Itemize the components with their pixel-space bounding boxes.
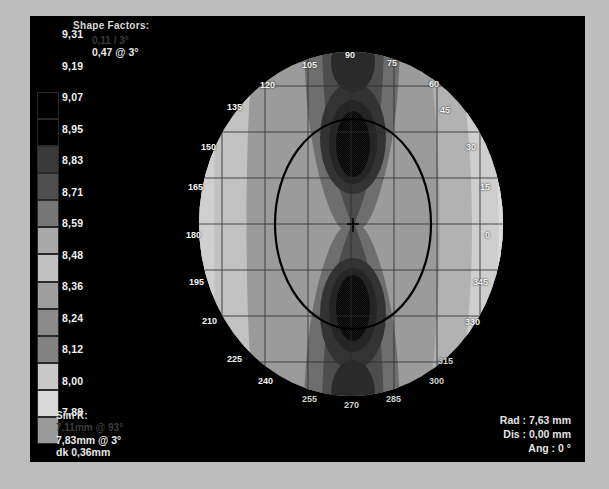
angle-label-bottom-240: 240 [258, 376, 273, 386]
color-scale-swatch [37, 119, 59, 146]
color-scale-label: 8,48 [62, 249, 106, 261]
angle-label-bottom-255: 255 [302, 394, 317, 404]
color-scale-label: 8,24 [62, 312, 106, 324]
angle-label-top-105: 105 [302, 60, 317, 70]
sim-k-line3: dk 0,36mm [56, 446, 110, 458]
angle-label-bottom-270: 270 [344, 400, 359, 410]
sim-k-line2: 7,83mm @ 3° [56, 434, 121, 446]
color-scale-swatch [37, 173, 59, 200]
angle-label-right-330: 330 [465, 317, 480, 327]
sim-k-title: Sim K: [56, 410, 88, 421]
color-scale-label: 8,36 [62, 280, 106, 292]
color-scale-label: 8,95 [62, 123, 106, 135]
angle-label-right-45: 45 [440, 105, 450, 115]
angle-label-right-315: 315 [438, 356, 453, 366]
readout-distance: Dis : 0,00 mm [503, 428, 571, 440]
angle-label-left-180: 180 [186, 230, 201, 240]
color-scale-label: 8,83 [62, 154, 106, 166]
color-scale-swatch [37, 309, 59, 336]
color-scale-swatch [37, 227, 59, 254]
color-scale-swatch [37, 363, 59, 390]
color-scale-label: 8,71 [62, 186, 106, 198]
corneal-map[interactable]: 120 105 90 75 60 135 150 165 180 195 210… [186, 42, 516, 412]
angle-label-left-210: 210 [202, 316, 217, 326]
angle-label-top-90: 90 [345, 50, 355, 60]
angle-label-left-135: 135 [227, 102, 242, 112]
color-scale-swatch [37, 254, 59, 281]
angle-label-left-150: 150 [201, 142, 216, 152]
shape-factors-title: Shape Factors: [73, 20, 149, 31]
angle-label-top-60: 60 [429, 79, 439, 89]
color-scale-swatch [37, 92, 59, 119]
angle-label-right-0: 0 [485, 230, 490, 240]
color-scale-label: 8,59 [62, 217, 106, 229]
readout-radius: Rad : 7,63 mm [500, 414, 571, 426]
angle-label-bottom-300: 300 [429, 376, 444, 386]
angle-label-top-75: 75 [387, 58, 397, 68]
color-scale-swatch [37, 146, 59, 173]
angle-label-left-165: 165 [188, 182, 203, 192]
shape-factors-line1: 0,11 / 3° [92, 35, 129, 46]
angle-label-left-225: 225 [227, 354, 242, 364]
angle-label-top-120: 120 [260, 80, 275, 90]
sim-k-line1: 7,11mm @ 93° [56, 422, 123, 433]
angle-label-right-15: 15 [480, 182, 490, 192]
color-scale-label: 8,00 [62, 375, 106, 387]
color-scale-bar [37, 92, 59, 444]
color-scale-labels: 9,319,199,078,958,838,718,598,488,368,24… [62, 28, 106, 438]
screenshot-root: 9,319,199,078,958,838,718,598,488,368,24… [0, 0, 609, 489]
color-scale-swatch [37, 336, 59, 363]
angle-label-left-195: 195 [189, 277, 204, 287]
color-scale-label: 8,12 [62, 343, 106, 355]
topography-canvas[interactable]: 9,319,199,078,958,838,718,598,488,368,24… [30, 16, 585, 462]
color-scale-label: 9,19 [62, 60, 106, 72]
color-scale-label: 9,07 [62, 91, 106, 103]
angle-label-bottom-285: 285 [386, 394, 401, 404]
color-scale-swatch [37, 282, 59, 309]
shape-factors-line2: 0,47 @ 3° [92, 46, 139, 58]
color-scale-swatch [37, 200, 59, 227]
readout-angle: Ang : 0 ° [528, 442, 571, 454]
angle-label-right-30: 30 [466, 142, 476, 152]
angle-label-right-345: 345 [473, 277, 488, 287]
